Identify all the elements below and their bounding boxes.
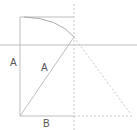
dashed-diagonal bbox=[74, 37, 130, 113]
label-left-A: A bbox=[10, 57, 17, 68]
radius-arc bbox=[24, 17, 74, 37]
geometry-diagram: A A B bbox=[0, 0, 137, 130]
label-hypotenuse-A: A bbox=[41, 62, 48, 73]
label-base-B: B bbox=[43, 118, 50, 129]
hypotenuse-A bbox=[20, 37, 74, 116]
